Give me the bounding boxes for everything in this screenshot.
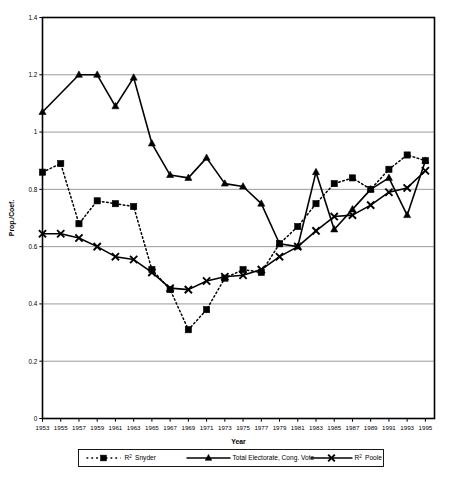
marker-square	[101, 455, 107, 461]
x-tick-label: 1981	[291, 424, 305, 431]
marker-triangle	[203, 154, 210, 160]
marker-square	[94, 198, 100, 204]
marker-square	[386, 166, 392, 172]
y-tick-label: 0	[34, 415, 38, 422]
x-tick-label: 1995	[419, 424, 433, 431]
x-tick-label: 1953	[36, 424, 50, 431]
y-tick-label: 0.6	[28, 243, 37, 250]
x-tick-label: 1975	[236, 424, 250, 431]
y-axis: 00.20.40.60.811.21.4	[28, 14, 42, 422]
legend-label-tail: Snyder	[135, 454, 157, 462]
chart-container: 00.20.40.60.811.21.4Prop./Coef.195319551…	[0, 0, 460, 480]
marker-square	[349, 175, 355, 181]
series-line	[43, 75, 426, 247]
x-tick-label: 1959	[90, 424, 104, 431]
marker-square	[295, 223, 301, 229]
legend-label-tail: Poole	[365, 454, 382, 461]
y-tick-label: 1.4	[28, 14, 37, 21]
marker-square	[313, 201, 319, 207]
x-tick-label: 1977	[254, 424, 268, 431]
x-tick-label: 1955	[54, 424, 68, 431]
marker-triangle	[148, 140, 155, 146]
x-tick-label: 1969	[181, 424, 195, 431]
y-tick-label: 1	[34, 128, 38, 135]
x-tick-label: 1989	[364, 424, 378, 431]
x-axis: 1953195519571959196119631965196719691971…	[36, 419, 433, 432]
x-tick-label: 1991	[382, 424, 396, 431]
series-2	[39, 71, 429, 249]
marker-square	[331, 181, 337, 187]
series-1	[39, 152, 428, 333]
x-tick-label: 1993	[400, 424, 414, 431]
marker-square	[76, 221, 82, 227]
y-tick-label: 1.2	[28, 71, 37, 78]
x-tick-label: 1961	[109, 424, 123, 431]
x-tick-label: 1973	[218, 424, 232, 431]
y-tick-label: 0.4	[28, 300, 37, 307]
x-tick-label: 1971	[200, 424, 214, 431]
x-tick-label: 1987	[346, 424, 360, 431]
marker-square	[404, 152, 410, 158]
marker-triangle	[312, 168, 319, 174]
marker-x	[312, 227, 319, 234]
marker-square	[240, 266, 246, 272]
x-tick-label: 1957	[72, 424, 86, 431]
x-tick-label: 1985	[327, 424, 341, 431]
legend-label-superscript: 2	[359, 454, 362, 459]
y-tick-label: 0.8	[28, 186, 37, 193]
marker-square	[185, 327, 191, 333]
marker-square	[39, 169, 45, 175]
line-chart: 00.20.40.60.811.21.4Prop./Coef.195319551…	[0, 0, 460, 480]
marker-square	[58, 160, 64, 166]
marker-triangle	[385, 174, 392, 180]
plot-frame	[43, 18, 435, 419]
marker-square	[203, 307, 209, 313]
marker-square	[112, 201, 118, 207]
x-tick-label: 1965	[145, 424, 159, 431]
legend-label-superscript: 2	[129, 454, 132, 459]
marker-x	[276, 253, 283, 260]
legend-label: R2Poole	[355, 454, 383, 462]
y-tick-label: 0.2	[28, 358, 37, 365]
gridlines	[43, 18, 435, 362]
marker-x	[367, 202, 374, 209]
x-axis-title: Year	[231, 438, 246, 445]
x-tick-label: 1963	[127, 424, 141, 431]
legend: R2SnyderTotal Electorate, Cong. VoteR2Po…	[79, 450, 384, 467]
y-axis-title: Prop./Coef.	[8, 200, 16, 236]
marker-triangle	[404, 211, 411, 217]
x-tick-label: 1967	[163, 424, 177, 431]
series-line	[43, 155, 426, 330]
x-tick-label: 1979	[273, 424, 287, 431]
x-tick-label: 1983	[309, 424, 323, 431]
plot-border	[43, 18, 435, 419]
legend-label: Total Electorate, Cong. Vote	[233, 454, 315, 462]
marker-square	[131, 203, 137, 209]
